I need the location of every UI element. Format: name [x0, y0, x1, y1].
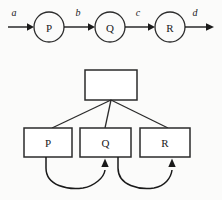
feedback-arrow-p-to-q: [46, 157, 109, 188]
edge-c: c: [125, 7, 155, 31]
connector-root-to-q: [105, 100, 111, 128]
feedback-arrow-q-to-r-head: [168, 159, 175, 168]
tree-node-r-label: R: [161, 137, 169, 149]
tree-node-r: R: [140, 128, 190, 157]
edge-label-a: a: [12, 7, 17, 18]
chain-node-p: P: [34, 12, 64, 42]
edge-d-arrowhead: [206, 23, 214, 31]
hierarchy-tree: P Q R: [24, 70, 190, 188]
edge-b-arrowhead: [88, 23, 95, 31]
edge-d: d: [185, 7, 214, 31]
tree-node-p-label: P: [45, 137, 51, 149]
linear-flow-chain: a P b Q c: [8, 7, 214, 43]
tree-node-p: P: [24, 128, 72, 157]
chain-node-r-label: R: [166, 22, 174, 34]
feedback-arrow-p-to-q-path: [46, 157, 105, 188]
diagram-canvas: a P b Q c: [0, 0, 222, 200]
edge-b: b: [64, 7, 95, 31]
chain-node-q: Q: [95, 12, 125, 42]
connector-root-to-r: [111, 100, 168, 128]
chain-node-r: R: [155, 12, 185, 42]
feedback-arrow-q-to-r-path: [118, 157, 172, 188]
edge-a: a: [8, 7, 34, 31]
tree-connectors: [52, 100, 168, 128]
feedback-arrow-q-to-r: [118, 157, 176, 188]
tree-node-root: [85, 70, 137, 100]
edge-a-arrowhead: [27, 23, 34, 31]
chain-node-p-label: P: [46, 22, 52, 34]
connector-root-to-p: [52, 100, 111, 128]
tree-node-q: Q: [80, 128, 131, 157]
chain-node-q-label: Q: [106, 22, 114, 34]
tree-node-q-label: Q: [102, 137, 110, 149]
edge-label-d: d: [193, 7, 199, 18]
feedback-arrow-p-to-q-head: [101, 159, 108, 168]
edge-c-arrowhead: [148, 23, 155, 31]
edge-label-b: b: [76, 7, 81, 18]
figure-root: a P b Q c: [0, 0, 222, 200]
edge-label-c: c: [136, 7, 141, 18]
tree-node-root-box: [85, 70, 137, 100]
